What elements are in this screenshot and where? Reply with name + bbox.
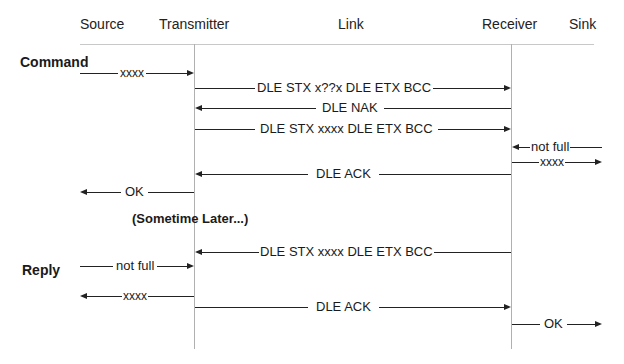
message-arrow: DLE ACK [195,300,511,314]
message-label: DLE ACK [308,167,379,181]
arrow-right-icon [504,126,511,132]
message-label: not full [530,140,570,154]
message-arrow: DLE ACK [195,167,511,181]
message-arrow: DLE STX xxxx DLE ETX BCC [195,122,511,136]
message-label: DLE ACK [308,300,379,314]
message-arrow: xxxx [80,289,194,303]
participant-transmitter: Transmitter [159,16,229,32]
message-arrow: DLE NAK [195,101,511,115]
participant-receiver: Receiver [482,16,537,32]
arrow-right-icon [595,321,602,327]
arrow-right-icon [504,304,511,310]
message-arrow: not full [512,140,602,154]
message-arrow: xxxx [512,155,602,169]
message-label: OK [540,317,567,331]
message-label: not full [113,259,157,273]
arrow-right-icon [595,159,602,165]
message-label: DLE STX xxxx DLE ETX BCC [259,245,434,259]
message-label: xxxx [118,66,146,80]
message-arrow: OK [512,317,602,331]
section-command: Command [20,54,88,70]
arrow-right-icon [187,263,194,269]
participant-source: Source [80,16,124,32]
message-label: xxxx [539,155,565,169]
section-reply: Reply [22,262,60,278]
note-sometime-later: (Sometime Later...) [132,211,248,226]
message-arrow: not full [80,259,194,273]
arrow-right-icon [187,70,194,76]
message-arrow: OK [80,185,194,199]
message-label: DLE STX x??x DLE ETX BCC [255,81,433,95]
message-label: xxxx [122,289,148,303]
message-label: OK [121,185,148,199]
header-divider [80,44,594,45]
message-arrow: DLE STX xxxx DLE ETX BCC [195,245,511,259]
message-arrow: DLE STX x??x DLE ETX BCC [195,81,511,95]
message-arrow: xxxx [80,66,194,80]
participant-sink: Sink [569,16,596,32]
participant-link: Link [338,16,364,32]
arrow-right-icon [504,85,511,91]
message-label: DLE STX xxxx DLE ETX BCC [255,122,438,136]
message-label: DLE NAK [316,101,384,115]
receiver-lifeline [511,44,512,349]
